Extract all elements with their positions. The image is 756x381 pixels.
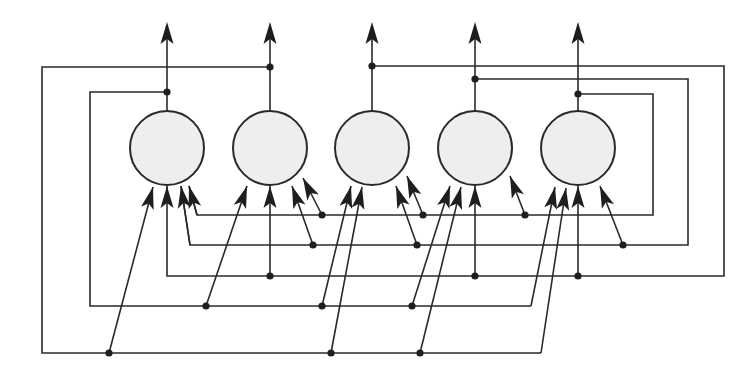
neurons: [130, 111, 615, 185]
tap-dot: [163, 88, 170, 95]
neuron-n2: [233, 111, 307, 185]
tap-dot: [574, 90, 581, 97]
recurrent-network-diagram: [0, 0, 756, 381]
junction-dot: [318, 302, 325, 309]
junction-dot: [416, 349, 423, 356]
input-line-n1-to-n2: [206, 186, 247, 306]
feedback-bus-n2: [42, 67, 541, 353]
tap-dot: [266, 63, 273, 70]
junction-dot: [266, 272, 273, 279]
input-line-n2-to-n1: [109, 187, 153, 353]
input-line-n2-to-n5: [541, 188, 566, 353]
junction-dot: [471, 272, 478, 279]
junction-dot: [309, 241, 316, 248]
input-line-n1-to-n3: [322, 186, 351, 306]
junction-dot: [318, 211, 325, 218]
tap-dot: [471, 75, 478, 82]
neuron-n1: [130, 111, 204, 185]
junction-dot: [327, 349, 334, 356]
junction-dot: [419, 211, 426, 218]
tap-dot: [368, 62, 375, 69]
junction-dot: [202, 302, 209, 309]
junction-dot: [574, 272, 581, 279]
neuron-n3: [335, 111, 409, 185]
junction-dots: [105, 62, 626, 356]
junction-dot: [105, 349, 112, 356]
input-line-n2-to-n4: [420, 187, 461, 353]
neuron-n5: [541, 111, 615, 185]
input-line-n2-to-n3: [331, 187, 362, 353]
junction-dot: [619, 241, 626, 248]
junction-dot: [408, 302, 415, 309]
neuron-n4: [438, 111, 512, 185]
junction-dot: [521, 211, 528, 218]
feedback-wires: [42, 66, 724, 353]
input-arrow-icon: [303, 178, 319, 201]
junction-dot: [413, 241, 420, 248]
output-arrows: [167, 32, 578, 111]
